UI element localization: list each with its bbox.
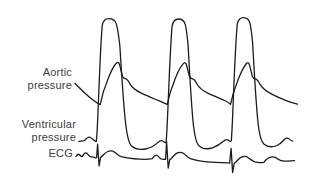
cardiac-cycle-diagram: Aortic pressure Ventricular pressure ECG (0, 0, 312, 183)
aortic-pressure-trace (75, 62, 298, 104)
ecg-trace (76, 142, 295, 173)
ventricular-pressure-trace (79, 18, 293, 150)
ecg-label: ECG (49, 147, 73, 160)
waveform-svg (0, 0, 312, 183)
ventricular-pressure-label: Ventricular pressure (22, 118, 76, 143)
aortic-pressure-label: Aortic pressure (28, 66, 72, 91)
